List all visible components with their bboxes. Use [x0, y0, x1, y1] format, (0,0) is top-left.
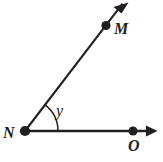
- point-o-dot: [128, 126, 137, 135]
- point-n-dot: [20, 126, 30, 136]
- angle-y-label: y: [56, 103, 63, 119]
- point-n-label: N: [3, 125, 15, 141]
- point-o-label: O: [128, 138, 140, 154]
- point-m-label: M: [114, 21, 128, 37]
- geometry-figure: N M O y: [0, 0, 163, 162]
- ray-no-arrowhead: [146, 126, 158, 137]
- point-m-dot: [101, 21, 110, 30]
